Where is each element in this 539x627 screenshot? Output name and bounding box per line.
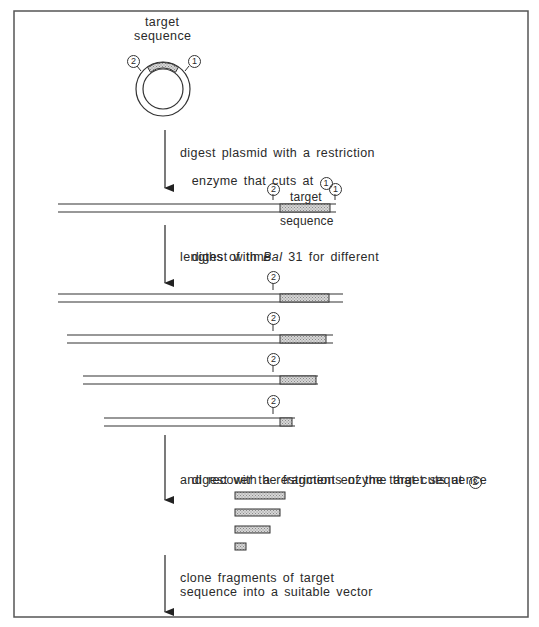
row-3-site-2: 2 bbox=[267, 350, 280, 366]
step-1-line2-text: enzyme that cuts at bbox=[192, 174, 314, 188]
row-2-site-2: 2 bbox=[267, 309, 280, 325]
site-2-badge: 2 bbox=[127, 55, 140, 68]
linear-site-1: 1 bbox=[329, 180, 342, 196]
site-2-badge: 2 bbox=[267, 312, 280, 325]
linear-label-target: target bbox=[290, 190, 322, 204]
deletion-row-2 bbox=[67, 324, 333, 343]
plasmid-circle bbox=[136, 62, 190, 116]
step-2-text-line2: lengths of time bbox=[180, 250, 271, 264]
plasmid-site-1: 1 bbox=[188, 52, 201, 68]
step-2-suffix: 31 for different bbox=[288, 250, 379, 264]
step-1-text-line1: digest plasmid with a restriction bbox=[180, 146, 375, 160]
plasmid-label-target: target bbox=[145, 15, 179, 29]
plasmid-site-2: 2 bbox=[127, 52, 140, 68]
fragment-4 bbox=[235, 543, 246, 550]
linear-site-2: 2 bbox=[267, 180, 280, 196]
step-1-text-line2: enzyme that cuts at 1 bbox=[180, 160, 333, 190]
step-3-text-line2: and recover the fragments of the target … bbox=[180, 473, 487, 487]
step-4-text-line2: sequence into a suitable vector bbox=[180, 585, 373, 599]
site-2-badge: 2 bbox=[267, 395, 280, 408]
linear-target-box bbox=[280, 204, 330, 212]
site-1-badge: 1 bbox=[329, 183, 342, 196]
linear-label-sequence: sequence bbox=[280, 214, 334, 228]
deletion-row-3 bbox=[83, 365, 318, 384]
row-4-site-2: 2 bbox=[267, 392, 280, 408]
fragment-2 bbox=[235, 509, 280, 516]
fragment-1 bbox=[235, 492, 285, 499]
fragment-3 bbox=[235, 526, 270, 533]
deletion-row-1 bbox=[58, 283, 343, 302]
site-2-badge: 2 bbox=[267, 271, 280, 284]
deletion-row-4 bbox=[104, 407, 295, 426]
site-2-badge: 2 bbox=[267, 353, 280, 366]
site-1-badge: 1 bbox=[188, 55, 201, 68]
row-1-site-2: 2 bbox=[267, 268, 280, 284]
plasmid-label-sequence: sequence bbox=[134, 29, 191, 43]
step-4-text-line1: clone fragments of target bbox=[180, 571, 334, 585]
site-2-badge: 2 bbox=[267, 183, 280, 196]
